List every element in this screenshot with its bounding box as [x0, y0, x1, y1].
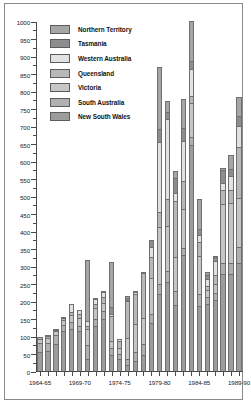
bar	[125, 296, 130, 371]
y-tick-minor	[33, 118, 36, 119]
bar	[228, 155, 233, 371]
bar-segment	[228, 274, 233, 371]
x-tick	[199, 372, 200, 376]
y-tick-minor	[33, 100, 36, 101]
y-tick-label: 200	[20, 299, 30, 306]
bar	[45, 335, 50, 371]
bar-segment	[173, 193, 178, 201]
y-tick-minor	[33, 293, 36, 294]
x-tick	[136, 372, 137, 376]
x-tick	[88, 372, 89, 376]
bar-segment	[141, 355, 146, 371]
bar-segment	[205, 297, 210, 304]
y-tick-label: 750	[20, 106, 30, 113]
x-tick	[159, 372, 160, 376]
y-tick-label: 100	[20, 334, 30, 341]
x-tick	[231, 372, 232, 376]
bar-segment	[77, 318, 82, 326]
bar-segment	[228, 155, 233, 168]
bar-segment	[109, 355, 114, 371]
bar	[93, 298, 98, 371]
x-tick	[191, 372, 192, 376]
bar	[165, 101, 170, 371]
y-tick-label: 500	[20, 194, 30, 201]
bar-segment	[220, 170, 225, 182]
y-tick-minor	[33, 205, 36, 206]
bar-segment	[173, 178, 178, 193]
bar-segment	[197, 242, 202, 255]
bar-segment	[173, 171, 178, 178]
y-tick	[31, 249, 36, 250]
plot-area: 0501001502002503003504004505005506006507…	[36, 22, 243, 372]
bar-segment	[236, 198, 241, 247]
bar-segment	[236, 126, 241, 147]
y-tick	[31, 162, 36, 163]
bar	[53, 329, 58, 371]
bar	[157, 67, 162, 371]
x-tick	[223, 372, 224, 376]
y-tick-label: 800	[20, 89, 30, 96]
y-tick	[31, 214, 36, 215]
y-tick-label: 0	[27, 369, 30, 376]
bar-segment	[181, 141, 186, 180]
bar	[109, 262, 114, 371]
y-tick	[31, 74, 36, 75]
bar-segment	[236, 97, 241, 116]
bar-segment	[181, 99, 186, 128]
bar-segment	[141, 344, 146, 355]
bar-segment	[173, 291, 178, 306]
y-tick-label: 400	[20, 229, 30, 236]
bar-segment	[133, 361, 138, 372]
y-tick	[31, 372, 36, 373]
bar-segment	[157, 294, 162, 371]
bar-segment	[181, 128, 186, 141]
x-tick-label: 1969-70	[69, 379, 91, 386]
bar-segment	[165, 101, 170, 112]
bar-segment	[157, 67, 162, 129]
x-tick	[96, 372, 97, 376]
x-tick-label: 1979-80	[148, 379, 170, 386]
y-tick	[31, 109, 36, 110]
y-tick	[31, 197, 36, 198]
bar-segment	[53, 344, 58, 371]
y-tick-label: 550	[20, 176, 30, 183]
x-tick	[80, 372, 81, 376]
bar-segment	[37, 352, 42, 371]
bar-segment	[101, 319, 106, 371]
y-tick-label: 850	[20, 71, 30, 78]
bar-segment	[197, 235, 202, 242]
y-tick-minor	[33, 275, 36, 276]
x-tick	[72, 372, 73, 376]
bar	[141, 272, 146, 371]
bar-segment	[165, 119, 170, 200]
y-tick	[31, 39, 36, 40]
bar-segment	[149, 278, 154, 315]
y-tick-label: 150	[20, 316, 30, 323]
bar	[236, 97, 241, 371]
x-tick	[215, 372, 216, 376]
y-tick	[31, 127, 36, 128]
bar-segment	[149, 314, 154, 323]
bar-segment	[165, 226, 170, 272]
y-tick-minor	[33, 170, 36, 171]
bar	[173, 171, 178, 371]
bar-segment	[228, 203, 233, 263]
bar-segment	[157, 284, 162, 294]
y-tick-label: 600	[20, 159, 30, 166]
y-tick-minor	[33, 30, 36, 31]
x-tick	[175, 372, 176, 376]
y-tick-minor	[33, 345, 36, 346]
y-tick-label: 450	[20, 211, 30, 218]
bar-segment	[236, 116, 241, 126]
bar-segment	[189, 69, 194, 95]
bar-segment	[109, 307, 114, 314]
bar-segment	[149, 257, 154, 277]
bar-segment	[236, 263, 241, 372]
y-tick-minor	[33, 240, 36, 241]
y-tick-minor	[33, 363, 36, 364]
bar-segment	[109, 341, 114, 348]
bar-segment	[213, 284, 218, 293]
y-tick-minor	[33, 258, 36, 259]
bar-segment	[220, 263, 225, 274]
x-tick	[104, 372, 105, 376]
